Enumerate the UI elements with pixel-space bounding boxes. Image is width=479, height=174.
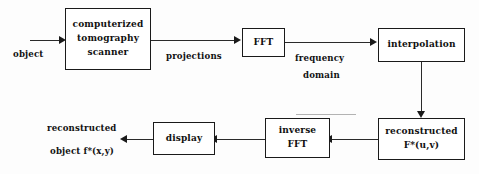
node-scanner-line-2: tomography [77,32,139,46]
scan-artifact-line [296,114,356,115]
node-interpolation-line-1: interpolation [387,38,455,52]
node-scanner: computerized tomography scanner [65,8,151,70]
node-inverse-fft-line-2: FFT [288,138,308,152]
node-inverse-fft-line-1: inverse [279,124,317,138]
edge-reconstructed-to-inverse-fft [331,139,378,140]
node-display: display [153,122,215,155]
edge-scanner-to-fft [151,40,235,41]
node-display-line-1: display [166,132,203,146]
node-inverse-fft: inverse FFT [265,118,330,158]
arrowhead-interpolation-to-reconstructed [417,111,425,118]
node-scanner-line-1: computerized [73,18,144,32]
edge-object-to-scanner [30,40,60,41]
edge-label-projections: projections [166,51,222,61]
arrowhead-display-to-output [120,135,127,143]
flow-diagram: object computerized tomography scanner p… [0,0,479,174]
edge-label-frequency: frequency [295,53,344,63]
node-reconstructed: reconstructed F*(u,v) [378,118,465,160]
edge-label-object: object [13,49,43,59]
arrowhead-fft-to-interpolation [370,38,377,46]
edge-label-domain: domain [303,70,340,80]
edge-inverse-fft-to-display [216,139,265,140]
node-fft-line-1: FFT [254,36,274,50]
edge-display-to-output [126,139,153,140]
edge-interpolation-to-reconstructed [421,62,422,112]
node-fft: FFT [242,28,285,57]
node-scanner-line-3: scanner [88,46,129,60]
output-label-line-2: object f*(x,y) [50,146,114,156]
node-reconstructed-line-1: reconstructed [385,125,458,139]
node-interpolation: interpolation [378,28,465,62]
arrowhead-scanner-to-fft [234,36,241,44]
output-label-line-1: reconstructed [47,123,116,133]
node-reconstructed-line-2: F*(u,v) [404,139,440,153]
edge-fft-to-interpolation [285,42,371,43]
